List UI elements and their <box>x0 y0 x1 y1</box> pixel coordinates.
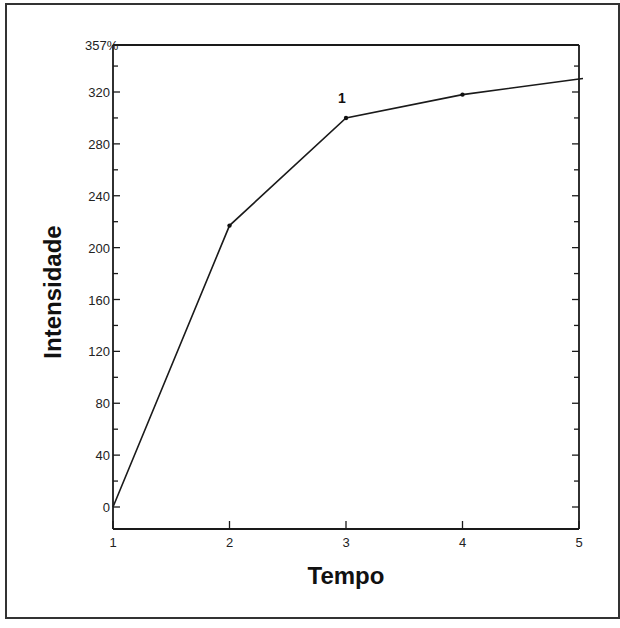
x-axis-title: Tempo <box>308 562 385 589</box>
y-tick-label: 160 <box>88 293 110 308</box>
chart: 04080120160200240280320 12345 1 357% Tem… <box>0 0 620 628</box>
y-axis-title: Intensidade <box>39 225 66 358</box>
x-axis-ticks: 12345 <box>109 521 582 550</box>
y-tick-label: 280 <box>88 137 110 152</box>
annotations: 1 <box>338 90 346 106</box>
point-annotation: 1 <box>338 90 346 106</box>
data-point <box>344 116 348 120</box>
x-tick-label: 5 <box>575 535 582 550</box>
x-tick-label: 3 <box>342 535 349 550</box>
x-tick-label: 1 <box>109 535 116 550</box>
y-tick-label: 320 <box>88 85 110 100</box>
y-tick-label: 240 <box>88 189 110 204</box>
data-point <box>227 223 231 227</box>
y-tick-label: 40 <box>96 448 110 463</box>
data-point <box>460 92 464 96</box>
data-markers <box>227 92 464 227</box>
y-axis-ticks: 04080120160200240280320 <box>88 66 579 515</box>
y-tick-label: 200 <box>88 241 110 256</box>
y-tick-label: 80 <box>96 396 110 411</box>
y-tick-label: 0 <box>103 500 110 515</box>
y-top-label: 357% <box>85 38 119 53</box>
x-tick-label: 2 <box>226 535 233 550</box>
series-line <box>113 78 583 507</box>
x-tick-label: 4 <box>459 535 466 550</box>
y-tick-label: 120 <box>88 344 110 359</box>
